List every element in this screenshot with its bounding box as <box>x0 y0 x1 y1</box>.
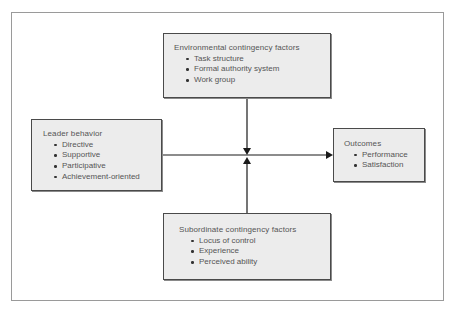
list-item: Achievement-oriented <box>54 172 161 183</box>
leader-behavior-list: Directive Supportive Participative Achie… <box>54 140 161 183</box>
outcomes-title: Outcomes <box>344 139 424 150</box>
list-item: Directive <box>54 140 161 151</box>
environmental-factors-list: Task structure Formal authority system W… <box>186 54 330 86</box>
outcomes-list: Performance Satisfaction <box>354 150 424 171</box>
list-item: Experience <box>191 246 330 257</box>
environmental-factors-box: Environmental contingency factors Task s… <box>163 33 331 98</box>
list-item: Locus of control <box>191 236 330 247</box>
outcomes-box: Outcomes Performance Satisfaction <box>333 128 425 182</box>
list-item: Participative <box>54 161 161 172</box>
leader-behavior-box: Leader behavior Directive Supportive Par… <box>31 119 162 191</box>
list-item: Satisfaction <box>354 160 424 171</box>
list-item: Task structure <box>186 54 330 65</box>
list-item: Perceived ability <box>191 257 330 268</box>
list-item: Formal authority system <box>186 64 330 75</box>
leader-behavior-title: Leader behavior <box>43 129 161 140</box>
subordinate-factors-list: Locus of control Experience Perceived ab… <box>191 236 330 268</box>
list-item: Work group <box>186 75 330 86</box>
list-item: Supportive <box>54 150 161 161</box>
list-item: Performance <box>354 150 424 161</box>
subordinate-factors-box: Subordinate contingency factors Locus of… <box>163 213 331 280</box>
subordinate-factors-title: Subordinate contingency factors <box>179 225 330 236</box>
environmental-factors-title: Environmental contingency factors <box>174 43 330 54</box>
